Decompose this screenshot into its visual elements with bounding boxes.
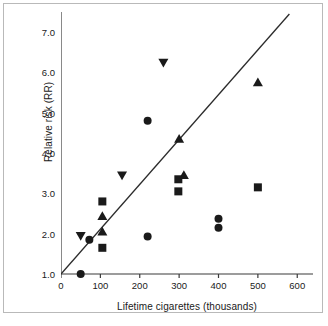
caption-strip <box>3 314 323 323</box>
x-axis-tick-label: 300 <box>171 280 187 291</box>
x-axis-tick-label: 400 <box>211 280 227 291</box>
plot-area: Lifetime cigarettes (thousands) Relative… <box>61 12 313 274</box>
figure-container: Lifetime cigarettes (thousands) Relative… <box>0 0 328 326</box>
data-point-circle <box>215 224 223 232</box>
data-point-triangle-up <box>97 211 107 220</box>
x-axis-title: Lifetime cigarettes (thousands) <box>61 301 313 312</box>
data-point-circle <box>215 215 223 223</box>
data-point-square <box>254 183 262 191</box>
data-point-circle <box>85 236 93 244</box>
x-axis-tick-label: 100 <box>92 280 108 291</box>
x-axis-tick-label: 500 <box>250 280 266 291</box>
y-axis-tick-label: 7.0 <box>25 27 55 38</box>
regression-line <box>61 14 289 274</box>
data-point-circle <box>77 270 85 278</box>
y-axis-tick-label: 5.0 <box>25 107 55 118</box>
data-point-triangle-down <box>117 171 127 180</box>
scatter-plot-svg <box>61 12 313 294</box>
data-point-circle <box>144 117 152 125</box>
data-point-square <box>98 197 106 205</box>
data-point-triangle-up <box>179 170 189 179</box>
x-axis-tick-label: 200 <box>132 280 148 291</box>
data-point-triangle-down <box>76 232 86 241</box>
figure-frame: Lifetime cigarettes (thousands) Relative… <box>3 3 323 313</box>
y-axis-tick-label: 4.0 <box>25 148 55 159</box>
data-point-circle <box>144 233 152 241</box>
data-point-triangle-up <box>253 78 263 87</box>
x-axis-tick-label: 600 <box>289 280 305 291</box>
data-point-square <box>98 244 106 252</box>
y-axis-tick-label: 2.0 <box>25 228 55 239</box>
y-axis-tick-label: 6.0 <box>25 67 55 78</box>
x-axis-tick-label: 0 <box>58 280 63 291</box>
data-point-square <box>174 187 182 195</box>
y-axis-tick-label: 1.0 <box>25 269 55 280</box>
y-axis-tick-label: 3.0 <box>25 188 55 199</box>
data-point-triangle-down <box>158 59 168 68</box>
